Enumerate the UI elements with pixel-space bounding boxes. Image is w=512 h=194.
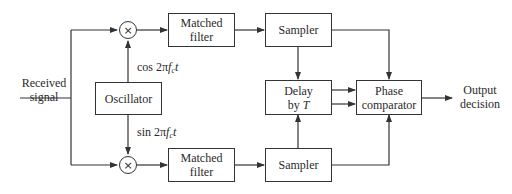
top-matched-filter: Matched filter (168, 13, 235, 47)
top-mixer: × (119, 21, 137, 39)
bottom-sampler: Sampler (265, 148, 332, 182)
delay-box: Delay by T (265, 80, 332, 115)
connection-lines (0, 0, 512, 194)
sin-label: sin 2πfct (137, 125, 176, 143)
input-label: Received signal (18, 76, 70, 104)
input-label-line1: Received (18, 76, 70, 90)
multiply-icon: × (123, 25, 132, 36)
cos-label: cos 2πfct (137, 60, 178, 78)
bottom-matched-filter: Matched filter (168, 148, 235, 182)
bottom-mixer: × (119, 156, 137, 174)
oscillator-label: Oscillator (105, 92, 152, 106)
top-sampler: Sampler (265, 13, 332, 47)
input-label-line2: signal (18, 90, 70, 104)
multiply-icon: × (123, 160, 132, 171)
output-label: Output decision (455, 83, 505, 111)
oscillator-box: Oscillator (95, 82, 162, 115)
phase-comparator-box: Phase comparator (356, 80, 422, 115)
